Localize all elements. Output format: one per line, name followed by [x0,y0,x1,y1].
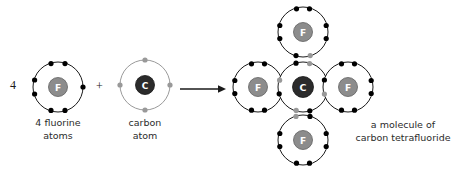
svg-text:F: F [255,83,261,93]
svg-text:F: F [300,136,306,146]
reactant-carbon-atom: C [115,55,175,115]
product-fluorine-top: F [273,2,333,62]
plus-sign: + [96,79,103,94]
svg-text:F: F [345,83,351,93]
coefficient-4: 4 [10,78,16,93]
carbon-nucleus-symbol: C [142,81,149,91]
svg-text:C: C [300,82,307,93]
fluorine-nucleus-symbol: F [55,83,61,93]
svg-text:F: F [300,28,306,38]
reaction-arrow-icon [180,80,228,99]
reactant-fluorine-label: 4 fluorine atoms [24,117,92,142]
shared-electron-bottom [293,114,298,119]
product-label: a molecule of carbon tetrafluoride [343,119,463,144]
product-fluorine-bottom: F [273,110,333,170]
shared-electron-right [322,91,327,96]
reactant-carbon-label: carbon atom [112,117,178,142]
product-fluorine-right: F [318,57,378,117]
reactant-fluorine-atom: F [28,57,88,117]
reaction-diagram: 4 F 4 fluorine atoms + C [0,0,463,172]
